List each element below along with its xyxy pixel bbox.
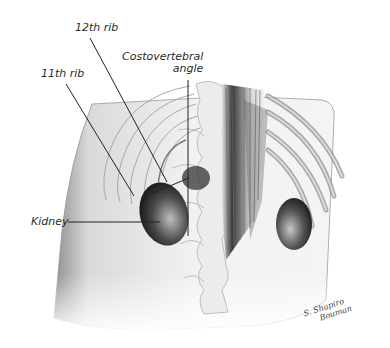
anatomical-figure: 12th rib 11th rib Costovertebral angle K…	[0, 0, 390, 348]
label-11th-rib: 11th rib	[41, 68, 84, 80]
label-costovertebral-angle: Costovertebral angle	[122, 51, 203, 75]
left-kidney-upper	[182, 166, 210, 190]
right-kidney	[276, 198, 312, 250]
label-cva-line2: angle	[122, 63, 203, 75]
label-kidney: Kidney	[31, 216, 69, 228]
label-12th-rib: 12th rib	[75, 22, 118, 34]
